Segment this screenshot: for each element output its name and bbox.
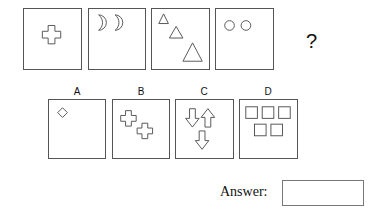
option-d[interactable] <box>239 99 298 159</box>
option-d-label: D <box>239 86 297 97</box>
square-icon <box>240 100 297 158</box>
sequence-figure-4 <box>215 8 274 70</box>
cross-icon <box>24 9 81 69</box>
sequence-figure-2 <box>88 8 146 70</box>
diamond-icon <box>49 100 105 158</box>
sequence-figure-3 <box>151 8 210 70</box>
crescent-icon <box>89 9 145 69</box>
option-a[interactable] <box>48 99 106 159</box>
option-a-label: A <box>48 86 106 97</box>
triangle-icon <box>152 9 209 69</box>
missing-figure-marker: ? <box>306 30 317 53</box>
arrow-icon <box>176 100 233 158</box>
option-b[interactable] <box>112 99 170 159</box>
circle-icon <box>216 9 273 69</box>
sequence-figure-1 <box>23 8 82 70</box>
option-b-label: B <box>112 86 170 97</box>
cross-icon <box>113 100 169 158</box>
answer-input[interactable] <box>282 180 364 206</box>
answer-label: Answer: <box>220 184 267 200</box>
option-c[interactable] <box>175 99 234 159</box>
option-c-label: C <box>175 86 233 97</box>
